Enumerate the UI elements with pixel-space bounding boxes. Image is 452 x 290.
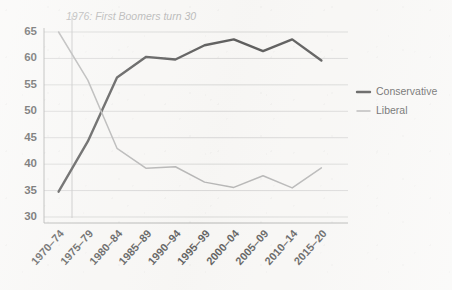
y-tick-55: 55	[24, 78, 37, 90]
legend-label-liberal[interactable]: Liberal	[376, 104, 408, 116]
y-tick-30: 30	[24, 210, 37, 222]
y-tick-40: 40	[24, 157, 37, 169]
chart-legend[interactable]: ConservativeLiberal	[357, 85, 437, 116]
series-line-conservative	[59, 39, 322, 191]
annotation-text-group: 1976: First Boomers turn 30	[66, 10, 196, 22]
line-chart: 3035404550556065 1970–741975–791980–8419…	[0, 0, 452, 290]
series-line-liberal	[59, 32, 322, 188]
data-series	[59, 32, 322, 192]
y-tick-50: 50	[24, 104, 37, 116]
y-tick-60: 60	[24, 51, 37, 63]
gridlines	[44, 32, 348, 217]
axis-lines	[44, 28, 348, 223]
y-axis-tick-labels: 3035404550556065	[24, 25, 37, 222]
y-tick-45: 45	[24, 131, 37, 143]
boomers-marker-label: 1976: First Boomers turn 30	[66, 10, 196, 22]
legend-label-conservative[interactable]: Conservative	[376, 85, 437, 97]
y-tick-35: 35	[24, 184, 37, 196]
x-axis-tick-labels: 1970–741975–791980–841985–891990–941995–…	[29, 227, 329, 268]
y-tick-65: 65	[24, 25, 37, 37]
